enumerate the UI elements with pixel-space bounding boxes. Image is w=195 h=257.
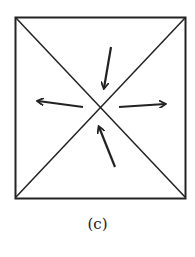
figure-caption: (c)	[0, 215, 195, 233]
arrow-right-outward-icon	[119, 104, 165, 107]
arrow-up-toward-center-icon	[99, 127, 115, 167]
arrow-down-toward-center-icon	[104, 47, 111, 88]
arrow-left-outward-icon	[38, 101, 83, 107]
